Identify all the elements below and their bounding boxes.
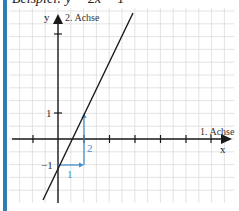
y-axis-label: 2. Achse xyxy=(65,12,100,23)
y-axis-arrow-icon xyxy=(53,14,63,24)
rise-label: 2 xyxy=(87,142,93,154)
x-axis-name: x xyxy=(220,143,226,155)
x-axis-label: 1. Achse xyxy=(200,126,235,137)
function-line xyxy=(43,13,133,200)
y-tick-label-1: 1 xyxy=(46,107,52,119)
y-axis-name: y xyxy=(44,11,50,23)
y-tick-label-neg1: −1 xyxy=(41,159,53,171)
coordinate-diagram: y 2. Achse 1. Achse x 1 −1 1 2 xyxy=(0,0,239,211)
run-label: 1 xyxy=(67,168,73,180)
